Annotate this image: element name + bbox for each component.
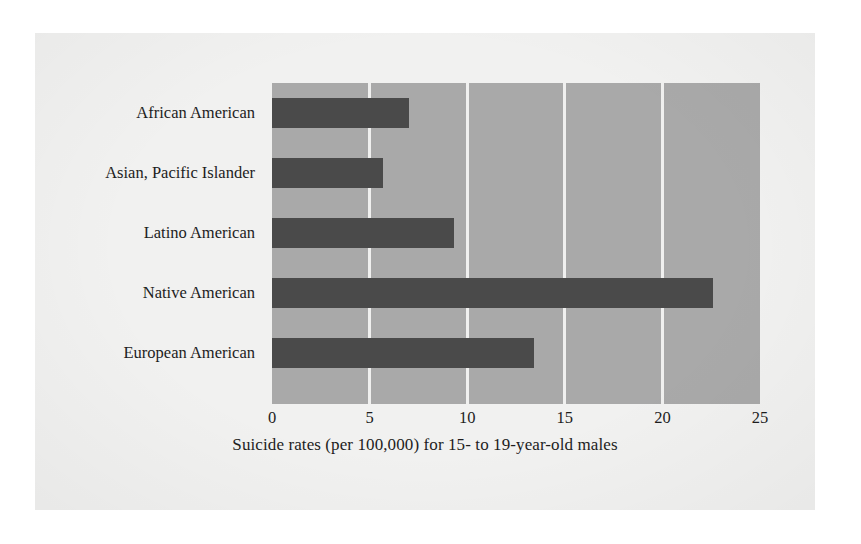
bar-row [272,143,760,203]
x-axis-title: Suicide rates (per 100,000) for 15- to 1… [35,435,815,455]
y-tick-label: Native American [143,278,255,308]
y-tick-label: African American [136,98,255,128]
x-tick-label: 5 [365,408,373,428]
x-tick-label: 15 [557,408,574,428]
bar-chart: African AmericanAsian, Pacific IslanderL… [35,33,815,510]
x-tick-label: 25 [752,408,769,428]
y-tick-label: European American [124,338,255,368]
bar-row [272,83,760,143]
bar [272,218,454,248]
x-tick-label: 0 [268,408,276,428]
y-tick-label: Latino American [144,218,255,248]
x-tick-label: 20 [654,408,671,428]
y-tick-label: Asian, Pacific Islander [105,158,255,188]
bar [272,338,534,368]
x-tick-label: 10 [459,408,476,428]
bar-row [272,323,760,383]
y-axis-category-labels: African AmericanAsian, Pacific IslanderL… [35,83,263,404]
bar [272,158,383,188]
bar-row [272,203,760,263]
figure-panel: African AmericanAsian, Pacific IslanderL… [35,33,815,510]
bar [272,98,409,128]
bar-row [272,263,760,323]
plot-area [272,83,760,404]
bar [272,278,713,308]
x-axis-tick-labels: 0510152025 [272,404,760,434]
